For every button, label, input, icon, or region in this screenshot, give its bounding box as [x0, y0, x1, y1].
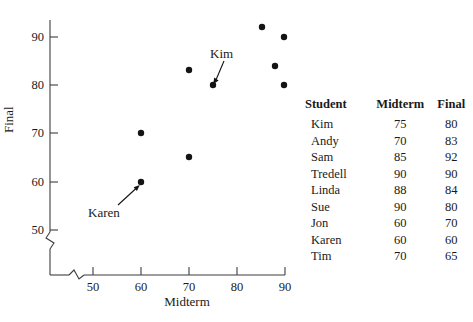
table-cell: 80 — [429, 116, 473, 133]
table-cell: 88 — [371, 182, 429, 199]
y-tick-label-60: 60 — [18, 176, 44, 189]
table-row: Kim7580 — [305, 116, 473, 133]
x-tick-label-50: 50 — [78, 281, 108, 294]
x-tick-label-80: 80 — [222, 281, 252, 294]
x-tick-label-90: 90 — [270, 281, 300, 294]
table-cell: 60 — [371, 232, 429, 249]
table-cell: Andy — [305, 133, 371, 150]
annotation-label-karen: Karen — [88, 206, 120, 219]
data-point-karen — [138, 179, 144, 185]
y-tick-label-50: 50 — [18, 224, 44, 237]
annotation-label-kim: Kim — [210, 47, 233, 60]
table-cell: 90 — [371, 166, 429, 183]
x-tick-label-60: 60 — [126, 281, 156, 294]
table-row: Tim7065 — [305, 248, 473, 265]
y-axis-break-icon — [46, 232, 54, 249]
table-cell: 84 — [429, 182, 473, 199]
table-cell: Sam — [305, 149, 371, 166]
student-scores-table: Student Midterm Final Kim7580Andy7083Sam… — [305, 96, 473, 265]
kim-arrow-head — [213, 78, 218, 85]
table-cell: Sue — [305, 199, 371, 216]
table-body: Kim7580Andy7083Sam8592Tredell9090Linda88… — [305, 116, 473, 265]
karen-leader-line — [118, 188, 137, 205]
table-cell: 65 — [429, 248, 473, 265]
table-cell: 75 — [371, 116, 429, 133]
table-header-midterm: Midterm — [371, 96, 429, 116]
table-cell: Linda — [305, 182, 371, 199]
scatter-plot-figure: 50 60 70 80 90 50 60 70 80 90 Final Midt… — [0, 0, 473, 322]
table-cell: 70 — [429, 215, 473, 232]
table-cell: 60 — [371, 215, 429, 232]
y-axis-title: Final — [2, 106, 15, 133]
table-row: Tredell9090 — [305, 166, 473, 183]
table-cell: 60 — [429, 232, 473, 249]
data-point-jon — [138, 130, 144, 136]
table-cell: 90 — [371, 199, 429, 216]
table-cell: 83 — [429, 133, 473, 150]
table-cell: 70 — [371, 133, 429, 150]
x-tick-label-70: 70 — [174, 281, 204, 294]
y-tick-label-90: 90 — [18, 31, 44, 44]
kim-leader-line — [216, 61, 225, 81]
data-point-sue — [281, 82, 287, 88]
y-tick-label-80: 80 — [18, 79, 44, 92]
table-row: Linda8884 — [305, 182, 473, 199]
data-point-linda — [272, 63, 278, 69]
table-cell: Karen — [305, 232, 371, 249]
x-axis-break-icon — [69, 270, 84, 279]
x-axis-title: Midterm — [142, 295, 232, 308]
table-row: Sam8592 — [305, 149, 473, 166]
data-point-tim — [186, 154, 192, 160]
table-header-row: Student Midterm Final — [305, 96, 473, 116]
table-cell: Jon — [305, 215, 371, 232]
table-row: Karen6060 — [305, 232, 473, 249]
table-row: Andy7083 — [305, 133, 473, 150]
table-header-student: Student — [305, 96, 371, 116]
table-header-final: Final — [429, 96, 473, 116]
table-cell: 80 — [429, 199, 473, 216]
data-point-tredell — [281, 34, 287, 40]
table-cell: 90 — [429, 166, 473, 183]
table-cell: 92 — [429, 149, 473, 166]
y-tick-label-70: 70 — [18, 127, 44, 140]
data-point-sam — [259, 24, 265, 30]
table-cell: Tim — [305, 248, 371, 265]
table-row: Sue9080 — [305, 199, 473, 216]
table-cell: Tredell — [305, 166, 371, 183]
table-cell: Kim — [305, 116, 371, 133]
table-cell: 70 — [371, 248, 429, 265]
data-point-andy — [186, 67, 192, 73]
table-cell: 85 — [371, 149, 429, 166]
table-row: Jon6070 — [305, 215, 473, 232]
